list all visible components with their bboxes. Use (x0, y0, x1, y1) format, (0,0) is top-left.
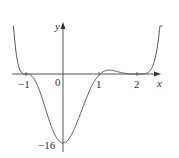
tick-label-2: 2 (134, 79, 140, 90)
x-axis-label: x (157, 78, 162, 89)
tick-label-0: 0 (55, 77, 61, 88)
y-axis-label: y (55, 21, 60, 32)
chart-area: y x −1 0 1 2 −16 (0, 0, 179, 158)
y-axis-arrow-icon (61, 22, 66, 29)
function-curve (13, 26, 163, 143)
tick-label-1: 1 (96, 79, 102, 90)
tick-label-neg1: −1 (18, 79, 30, 90)
x-axis-arrow-icon (154, 72, 161, 77)
tick-label-neg16: −16 (38, 140, 55, 151)
